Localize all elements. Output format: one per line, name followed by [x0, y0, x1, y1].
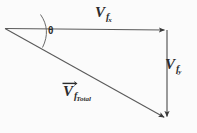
label-vtotal-subsubscript: Total: [76, 95, 91, 103]
label-vfy: Vfy: [165, 57, 181, 72]
label-vtotal-symbol: V: [63, 83, 73, 99]
label-vfx-subsubscript: x: [108, 16, 112, 24]
label-vfx-symbol: V: [95, 4, 105, 20]
label-vtotal-symbol-wrap: V: [63, 84, 73, 99]
vector-line-vtotal: [5, 29, 164, 118]
vector-line-vfx: [5, 29, 165, 31]
label-vfy-symbol: V: [165, 56, 175, 72]
label-vtotal: V fTotal: [63, 84, 91, 99]
angle-arc: [41, 15, 47, 48]
vector-diagram: Vfx Vfy V fTotal θ: [0, 0, 197, 133]
label-vfx: Vfx: [95, 5, 112, 20]
label-theta: θ: [48, 26, 53, 36]
